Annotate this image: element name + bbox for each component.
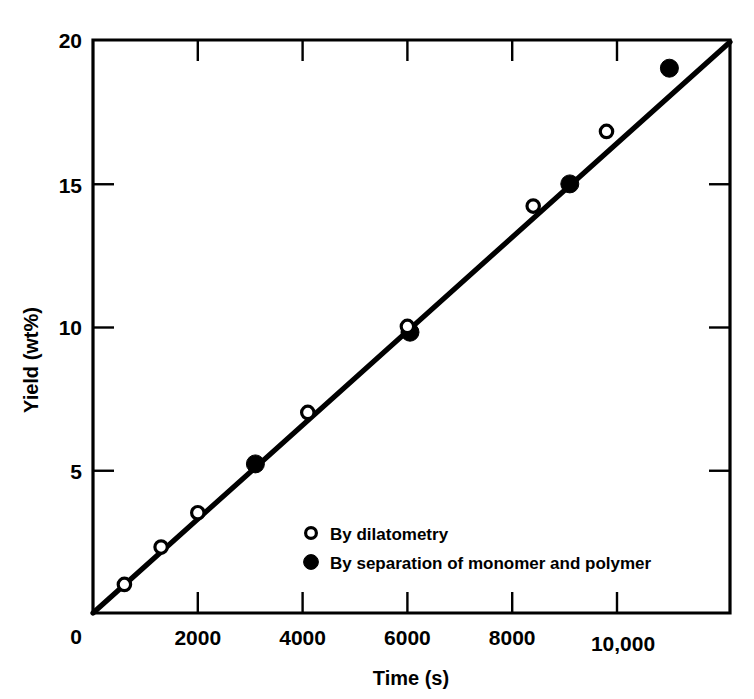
y-axis-ticks-right: [709, 184, 730, 471]
data-point-filled: [561, 175, 579, 193]
data-point-open: [155, 541, 167, 553]
figure-container: 20 15 10 5 0 2000 4000 6000 8000 10,000 …: [0, 0, 754, 699]
scatter-plot: 20 15 10 5 0 2000 4000 6000 8000 10,000 …: [0, 0, 754, 699]
data-point-filled: [246, 455, 264, 473]
y-tick-label-5: 5: [70, 460, 82, 483]
x-axis-label: Time (s): [373, 667, 449, 689]
x-tick-label-8000: 8000: [489, 626, 536, 649]
data-point-open: [600, 125, 612, 137]
legend-label-dilatometry: By dilatometry: [330, 525, 449, 544]
x-tick-label-6000: 6000: [384, 626, 431, 649]
data-point-open: [302, 406, 314, 418]
y-axis-label: Yield (wt%): [20, 307, 42, 413]
data-point-open: [401, 320, 413, 332]
y-tick-labels: 20 15 10 5 0: [59, 29, 83, 648]
legend-marker-open-circle: [306, 528, 317, 539]
data-point-open: [527, 200, 539, 212]
legend-marker-filled-circle: [304, 555, 319, 570]
y-tick-label-0: 0: [70, 625, 82, 648]
y-tick-label-10: 10: [59, 316, 82, 339]
y-tick-label-15: 15: [59, 174, 83, 197]
data-point-filled: [660, 59, 678, 77]
y-axis-ticks-left: [93, 184, 114, 471]
legend: By dilatometry By separation of monomer …: [304, 525, 652, 573]
x-tick-labels: 2000 4000 6000 8000 10,000: [174, 626, 655, 655]
data-point-open: [192, 507, 204, 519]
data-point-open: [118, 578, 130, 590]
x-tick-label-4000: 4000: [279, 626, 326, 649]
x-axis-ticks-top: [198, 40, 617, 61]
y-tick-label-20: 20: [59, 29, 82, 52]
x-tick-label-10000: 10,000: [591, 632, 655, 655]
x-axis-ticks-bottom: [198, 592, 617, 613]
legend-label-separation: By separation of monomer and polymer: [330, 554, 652, 573]
x-tick-label-2000: 2000: [174, 626, 221, 649]
